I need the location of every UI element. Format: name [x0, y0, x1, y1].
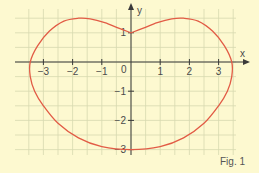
svg-text:−3: −3 [38, 66, 50, 77]
svg-text:0: 0 [121, 64, 127, 75]
svg-text:−1: −1 [96, 66, 108, 77]
svg-text:y: y [137, 5, 142, 16]
svg-text:x: x [240, 48, 245, 59]
axes: xy0−3−2−11231−1−2−3 [15, 3, 250, 155]
svg-text:−1: −1 [115, 86, 127, 97]
svg-text:1: 1 [157, 66, 163, 77]
svg-text:2: 2 [187, 66, 193, 77]
x-axis-arrow-icon [243, 59, 250, 65]
figure-label: Fig. 1 [220, 156, 245, 167]
chart: xy0−3−2−11231−1−2−3 [0, 0, 259, 173]
svg-text:−2: −2 [115, 115, 127, 126]
y-axis-arrow-icon [128, 3, 134, 10]
svg-text:3: 3 [216, 66, 222, 77]
svg-text:−2: −2 [67, 66, 79, 77]
